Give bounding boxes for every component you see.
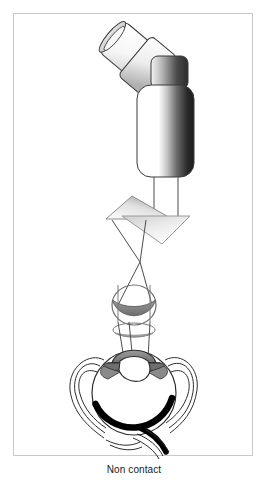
collar-block bbox=[151, 56, 188, 89]
eye-cross-section bbox=[70, 350, 197, 459]
figure-caption: Non contact bbox=[0, 464, 268, 476]
instrument-body bbox=[137, 85, 194, 177]
lower-sheath bbox=[106, 440, 142, 450]
ray-left bbox=[112, 220, 140, 305]
non-contact-tonometer-illustration bbox=[0, 0, 268, 489]
eyepiece-collar bbox=[151, 56, 188, 89]
prism-assembly bbox=[106, 196, 190, 244]
optic-nerve-trunk bbox=[140, 428, 166, 452]
figure-root: Non contact bbox=[0, 0, 268, 489]
body-housing bbox=[137, 85, 194, 177]
prism-lower bbox=[122, 216, 190, 244]
